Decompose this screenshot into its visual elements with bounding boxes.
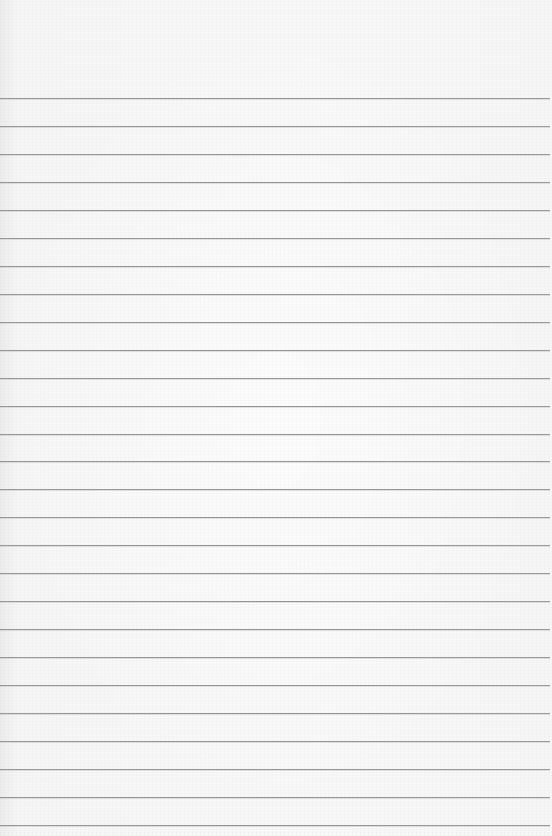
ruled-line <box>0 350 550 351</box>
ruled-line <box>0 517 550 518</box>
ruled-line <box>0 825 550 826</box>
ruled-line <box>0 741 550 742</box>
ruled-line <box>0 210 550 211</box>
ruled-line <box>0 238 550 239</box>
ruled-line <box>0 294 550 295</box>
ruled-line <box>0 154 550 155</box>
ruled-line <box>0 657 550 658</box>
ruled-line <box>0 461 550 462</box>
ruled-line <box>0 601 550 602</box>
ruled-line <box>0 573 550 574</box>
ruled-line <box>0 126 550 127</box>
ruled-line <box>0 266 550 267</box>
ruled-line <box>0 769 550 770</box>
ruled-line <box>0 182 550 183</box>
ruled-line <box>0 685 550 686</box>
lined-paper-sheet <box>0 0 552 836</box>
ruled-line <box>0 713 550 714</box>
ruled-line <box>0 629 550 630</box>
ruled-line <box>0 98 550 99</box>
ruled-line <box>0 378 550 379</box>
ruled-line <box>0 489 550 490</box>
ruled-line <box>0 406 550 407</box>
ruled-line <box>0 545 550 546</box>
ruled-line <box>0 322 550 323</box>
ruled-line <box>0 797 550 798</box>
ruled-line <box>0 434 550 435</box>
